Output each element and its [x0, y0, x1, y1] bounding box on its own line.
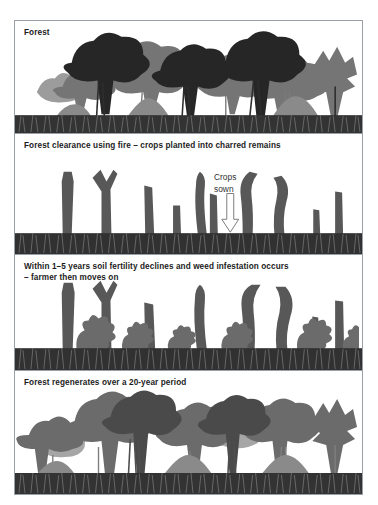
ground-strip	[15, 473, 362, 494]
panel-caption-decline: Within 1–5 years soil fertility declines…	[24, 261, 289, 283]
figure-frame: Forest	[14, 20, 363, 495]
crops-sown-label: Crops sown	[214, 172, 236, 195]
panel-forest: Forest	[15, 21, 362, 134]
panel-clearance: Forest clearance using fire – crops plan…	[15, 134, 362, 255]
tree-dark-group	[64, 31, 306, 118]
scene-mature-forest	[15, 21, 362, 133]
ground-strip	[15, 233, 362, 254]
clearance-illustration	[15, 134, 362, 254]
panel-caption-clearance: Forest clearance using fire – crops plan…	[24, 140, 281, 151]
scene-burnt-clearing	[15, 134, 362, 254]
panel-caption-regeneration: Forest regenerates over a 20-year period	[24, 377, 186, 388]
scene-regenerating-forest	[15, 371, 362, 494]
panel-decline: Within 1–5 years soil fertility declines…	[15, 255, 362, 371]
ground-strip	[15, 115, 362, 133]
charred-stumps	[62, 170, 343, 235]
down-arrow-icon	[222, 194, 239, 233]
ground-strip	[15, 348, 362, 370]
panel-caption-forest: Forest	[24, 27, 50, 38]
panel-regeneration: Forest regenerates over a 20-year period	[15, 371, 362, 494]
regeneration-illustration	[15, 371, 362, 494]
forest-illustration	[15, 21, 362, 133]
